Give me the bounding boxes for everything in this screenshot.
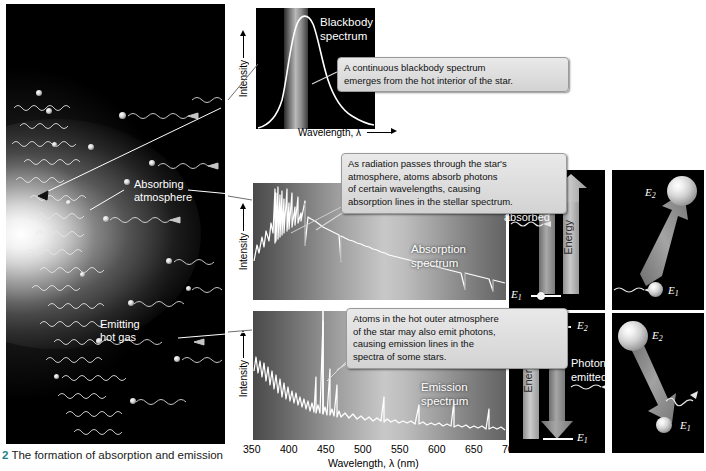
figure-caption-text: The formation of absorption and emission — [11, 449, 223, 461]
intensity-axis-blackbody — [243, 36, 244, 58]
absorption-atom-lower-label: E1 — [668, 284, 679, 298]
emission-atom-lower-label: E1 — [680, 419, 691, 433]
callout-emission: Atoms in the hot outer atmosphere of the… — [346, 308, 568, 369]
blackbody-title: Blackbody spectrum — [320, 16, 373, 44]
emission-label: Emission spectrum — [421, 381, 468, 409]
axis-tick-label: 650 — [465, 443, 483, 455]
label-line: atmosphere — [134, 191, 192, 204]
y-axis-label-blackbody: Intensity — [238, 60, 249, 97]
photon-emitted-label: Photon emitted — [571, 357, 607, 385]
level-subscript: 1 — [687, 424, 691, 433]
x-axis-label-blackbody: Wavelength, λ — [298, 127, 393, 138]
axis-tick-label: 400 — [280, 443, 298, 455]
emission-upper-level-label: E2 — [577, 319, 588, 333]
absorption-lower-level-label: E1 — [511, 288, 522, 302]
energy-axis-label-absorption: Energy — [562, 220, 574, 255]
absorption-label: Absorption spectrum — [411, 243, 466, 271]
emission-lower-level-label: E1 — [577, 431, 588, 445]
level-symbol: E — [668, 284, 675, 296]
emission-atom-diagram: E2 E1 — [612, 313, 704, 453]
axis-tick-label: 450 — [317, 443, 335, 455]
title-line: spectrum — [320, 30, 373, 44]
label-line: Photon — [571, 357, 607, 371]
axis-tick-label: 500 — [354, 443, 372, 455]
label-line: spectrum — [421, 395, 468, 409]
level-symbol: E — [577, 319, 584, 331]
atom-excited-sphere — [667, 176, 697, 206]
level-subscript: 1 — [675, 289, 679, 298]
label-absorbing-atmosphere: Absorbing atmosphere — [134, 178, 192, 204]
figure-number: 2 — [2, 449, 8, 461]
level-symbol: E — [511, 288, 518, 300]
callout-line: of certain wavelengths, causing — [348, 183, 560, 196]
level-symbol: E — [680, 419, 687, 431]
intensity-axis-emission — [243, 336, 244, 358]
y-axis-label-emission: Intensity — [238, 360, 249, 397]
callout-absorption: As radiation passes through the star's a… — [341, 153, 567, 214]
label-line: hot gas — [100, 331, 140, 344]
callout-line: causing emission lines in the — [353, 338, 561, 351]
level-symbol: E — [652, 329, 659, 341]
absorption-atom-upper-label: E2 — [645, 186, 656, 200]
y-axis-label-absorption: Intensity — [238, 233, 249, 270]
star-illustration-panel: Absorbing atmosphere Emitting hot gas — [6, 4, 225, 444]
axis-tick-label: 350 — [243, 443, 261, 455]
level-subscript: 1 — [518, 293, 522, 302]
intensity-axis-absorption — [243, 209, 244, 231]
callout-blackbody: A continuous blackbody spectrum emerges … — [337, 57, 569, 92]
axis-arrow-shaft — [367, 132, 393, 133]
label-line: Emission — [421, 381, 468, 395]
level-subscript: 2 — [584, 324, 588, 333]
level-subscript: 2 — [652, 191, 656, 200]
axis-tick-label: 550 — [391, 443, 409, 455]
axis-tick-label: 600 — [428, 443, 446, 455]
x-axis-label-text: Wavelength, λ — [298, 127, 361, 138]
callout-line: of the star may also emit photons, — [353, 326, 561, 339]
level-subscript: 2 — [659, 334, 663, 343]
level-symbol: E — [645, 186, 652, 198]
emission-atom-upper-label: E2 — [652, 329, 663, 343]
level-symbol: E — [577, 431, 584, 443]
label-line: Absorbing — [134, 178, 192, 191]
atom-ground-sphere — [656, 417, 672, 433]
core-pointer-arrows — [6, 4, 225, 444]
label-emitting-hot-gas: Emitting hot gas — [100, 318, 140, 344]
wavelength-arrow-blackbody — [391, 128, 397, 134]
label-line: spectrum — [411, 257, 466, 271]
callout-line: absorption lines in the stellar spectrum… — [348, 196, 560, 209]
callout-line: spectra of some stars. — [353, 351, 561, 364]
figure-caption: 2The formation of absorption and emissio… — [2, 449, 223, 461]
title-line: Blackbody — [320, 16, 373, 30]
callout-line: A continuous blackbody spectrum — [344, 62, 562, 75]
callout-line: emerges from the hot interior of the sta… — [344, 75, 562, 88]
label-line: emitted — [571, 371, 607, 385]
atom-ground-sphere — [648, 282, 663, 297]
callout-line: atmosphere, atoms absorb photons — [348, 171, 560, 184]
callout-line: As radiation passes through the star's — [348, 158, 560, 171]
label-line: Absorption — [411, 243, 466, 257]
shared-axis-label: Wavelength, λ (nm) — [328, 457, 419, 469]
callout-line: Atoms in the hot outer atmosphere — [353, 313, 561, 326]
level-subscript: 1 — [584, 436, 588, 445]
label-line: Emitting — [100, 318, 140, 331]
figure-root: Absorbing atmosphere Emitting hot gas Bl… — [0, 0, 706, 471]
atom-excited-sphere — [618, 321, 648, 351]
absorption-atom-diagram: E2 E1 — [612, 170, 704, 310]
